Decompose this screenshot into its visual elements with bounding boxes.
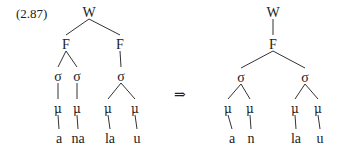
tree-edge [58, 51, 66, 67]
example-number: (2.87) [16, 6, 47, 21]
syllable-node: σ [237, 70, 245, 85]
mora-node: μ [246, 102, 254, 116]
mora-node: μ [73, 102, 81, 116]
tree-edge [66, 51, 77, 67]
tree-edge [58, 115, 59, 129]
tree-edge [108, 83, 121, 99]
tree-edge [121, 83, 135, 99]
input-tree: WFFσσσμμμμanalau [54, 5, 140, 146]
word-node: W [266, 5, 280, 20]
prosodic-tree-diagram: (2.87) ⇒ WFFσσσμμμμanalau WFσσμμμμanlau [0, 0, 338, 151]
segment-node: la [105, 131, 116, 146]
syllable-node: σ [117, 69, 125, 84]
tree-edge [77, 115, 78, 129]
mora-node: μ [131, 102, 139, 116]
output-tree: WFσσμμμμanlau [224, 5, 323, 146]
derivation-arrow: ⇒ [174, 87, 186, 102]
segment-node: u [134, 131, 141, 146]
mora-node: μ [224, 102, 232, 116]
syllable-node: σ [301, 70, 309, 85]
tree-edge [318, 115, 320, 129]
mora-node: μ [314, 102, 322, 116]
word-node: W [82, 5, 96, 20]
segment-node: a [229, 131, 236, 146]
segment-node: a [56, 131, 63, 146]
segment-node: la [291, 131, 302, 146]
tree-edge [295, 84, 305, 99]
mora-node: μ [54, 102, 62, 116]
tree-edge [273, 51, 305, 68]
tree-edge [108, 115, 110, 129]
tree-edge [120, 51, 121, 67]
segment-node: na [71, 131, 85, 146]
foot-node: F [269, 37, 277, 52]
tree-edge [228, 115, 232, 129]
tree-edge [295, 115, 296, 129]
tree-edge [250, 115, 251, 129]
foot-node: F [116, 37, 124, 52]
tree-edge [241, 51, 273, 68]
mora-node: μ [291, 102, 299, 116]
tree-edge [89, 19, 120, 35]
tree-edge [305, 84, 318, 99]
tree-edge [241, 84, 250, 99]
foot-node: F [62, 37, 70, 52]
mora-node: μ [104, 102, 112, 116]
syllable-node: σ [73, 69, 81, 84]
segment-node: u [317, 131, 324, 146]
segment-node: n [248, 131, 255, 146]
syllable-node: σ [54, 69, 62, 84]
tree-edge [135, 115, 137, 129]
tree-edge [228, 84, 241, 99]
tree-edge [66, 19, 89, 35]
